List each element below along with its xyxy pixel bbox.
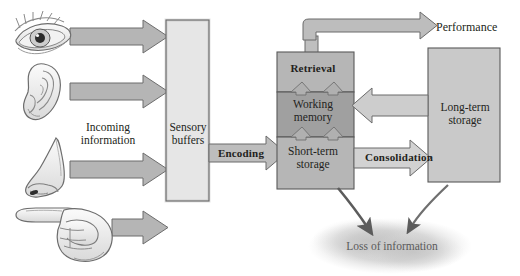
input-arrow-hearing: [70, 75, 168, 108]
input-arrow-vision: [70, 20, 168, 53]
memory-stack: [277, 36, 354, 189]
finger-icon: [16, 208, 112, 261]
long-term-storage-box: [428, 48, 500, 182]
long-term-to-working-arrow: [352, 88, 428, 123]
input-arrow-smell: [70, 153, 168, 186]
nose-icon: [26, 138, 65, 197]
encoding-arrow: [209, 136, 286, 170]
performance-arrow: [303, 12, 437, 40]
diagram-canvas: [0, 0, 520, 276]
loss-of-information-cloud: [308, 218, 472, 274]
loss-curve-from-long-term: [411, 185, 448, 227]
consolidation-arrow: [354, 140, 431, 176]
eye-icon: [15, 11, 71, 54]
memory-model-diagram: Incoming information Sensory buffers Enc…: [0, 0, 520, 276]
ear-icon: [23, 64, 60, 120]
sensory-buffers-box: [166, 20, 209, 201]
input-arrow-touch: [112, 211, 168, 244]
